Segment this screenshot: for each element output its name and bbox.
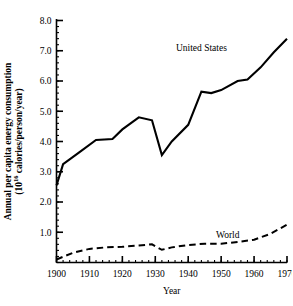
y-axis-tick-label: 2.0	[40, 197, 52, 207]
series-annotation-united-states: United States	[176, 43, 227, 53]
y-axis-tick-label: 3.0	[40, 167, 52, 177]
series-annotation-world: World	[216, 230, 240, 240]
x-axis-tick-label: 1920	[113, 269, 132, 279]
x-axis-tick-label: 1970	[278, 269, 293, 279]
y-axis-title-group: Annual per capita energy consumption(101…	[3, 62, 25, 220]
y-axis-tick-label: 7.0	[40, 46, 52, 56]
x-axis-tick-label: 1940	[179, 269, 198, 279]
y-axis-tick-label: 6.0	[40, 76, 52, 86]
energy-consumption-line-chart: 1.02.03.04.05.06.07.08.01900191019201930…	[0, 0, 292, 306]
y-axis-title-line1: Annual per capita energy consumption	[3, 62, 13, 220]
x-axis-tick-label: 1960	[245, 269, 264, 279]
x-axis-tick-label: 1950	[212, 269, 231, 279]
series-line-world	[57, 225, 288, 260]
y-axis-title-line2: (1016 calories/person/year)	[12, 88, 24, 195]
chart-figure: 1.02.03.04.05.06.07.08.01900191019201930…	[0, 0, 292, 306]
x-axis-tick-label: 1900	[47, 269, 66, 279]
x-axis-tick-label: 1930	[146, 269, 165, 279]
y-axis-tick-label: 8.0	[40, 16, 52, 26]
y-axis-tick-label: 4.0	[40, 137, 52, 147]
series-line-united-states	[57, 39, 288, 186]
x-axis-tick-label: 1910	[80, 269, 99, 279]
x-axis-title: Year	[163, 286, 181, 296]
y-axis-tick-label: 1.0	[40, 228, 52, 238]
y-axis-tick-label: 5.0	[40, 107, 52, 117]
